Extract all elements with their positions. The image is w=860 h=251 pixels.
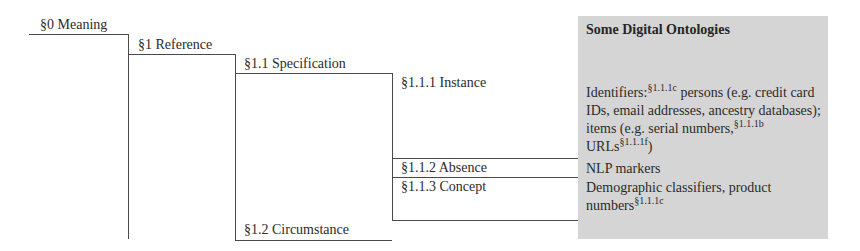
node-concept: §1.1.3 Concept bbox=[401, 179, 486, 195]
node-instance: §1.1.1 Instance bbox=[401, 75, 486, 91]
panel-title: Some Digital Ontologies bbox=[586, 22, 730, 38]
instance-underline bbox=[392, 158, 578, 159]
meaning-underline bbox=[29, 34, 128, 35]
instance-text-1: Identifiers: bbox=[586, 85, 647, 100]
digital-ontologies-panel: Some Digital Ontologies Identifiers:§1.1… bbox=[578, 16, 828, 239]
instance-description: Identifiers:§1.1.1c persons (e.g. credit… bbox=[586, 84, 822, 156]
instance-text-4: ) bbox=[648, 139, 653, 154]
concept-description: Demographic classifiers, product numbers… bbox=[586, 179, 822, 215]
specification-underline bbox=[235, 73, 392, 74]
specification-branch bbox=[392, 73, 393, 220]
meaning-branch bbox=[128, 34, 129, 239]
instance-ref-2: §1.1.1b bbox=[734, 118, 764, 129]
concept-text: Demographic classifiers, product numbers bbox=[586, 180, 771, 213]
circumstance-underline bbox=[235, 240, 392, 241]
reference-underline bbox=[128, 54, 235, 55]
reference-branch bbox=[235, 54, 236, 240]
absence-description: NLP markers bbox=[586, 160, 822, 178]
absence-underline bbox=[392, 177, 578, 178]
concept-underline bbox=[392, 220, 578, 221]
node-absence: §1.1.2 Absence bbox=[401, 160, 487, 176]
node-meaning: §0 Meaning bbox=[40, 17, 107, 33]
instance-ref-1: §1.1.1c bbox=[647, 82, 676, 93]
node-reference: §1 Reference bbox=[138, 37, 212, 53]
concept-ref: §1.1.1c bbox=[634, 195, 663, 206]
node-circumstance: §1.2 Circumstance bbox=[244, 222, 349, 238]
instance-text-3: URLs bbox=[586, 139, 619, 154]
node-specification: §1.1 Specification bbox=[244, 56, 346, 72]
instance-ref-3: §1.1.1f bbox=[619, 136, 647, 147]
